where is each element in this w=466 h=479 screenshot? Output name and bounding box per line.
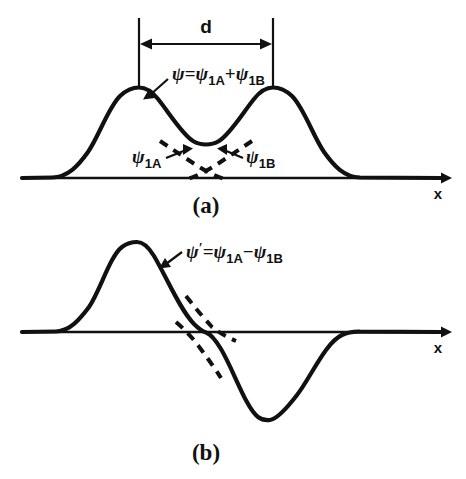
panel-a-atomic-left-pointer-arrowhead [183,144,193,155]
panel-a-label-term1-sub: 1A [208,73,225,88]
panel-a-curve-label: ψ=ψ1A+ψ1B [172,63,265,88]
panel-a-label-term1-psi: ψ [196,63,209,84]
panel-a-label-equals: = [185,63,196,84]
panel-a-label-term2-sub: 1B [248,73,265,88]
molecular-orbital-figure: d ψ=ψ1A+ψ1B ψ1A ψ1B [0,0,466,479]
panel-b-group: ψ′=ψ1A−ψ1B x (b) [22,241,452,465]
panel-a-atomic-right-sub: 1B [259,156,276,171]
panel-a-separation-arrowhead-right [260,39,272,50]
panel-b-label-operator: − [243,241,254,262]
panel-a-curve-label-pointer [150,79,168,95]
panel-b-label-psi: ψ [186,241,199,262]
panel-a-dashed-curve-1b [188,141,252,179]
panel-b-label-term1-sub: 1A [226,251,243,266]
panel-a-label-operator: + [225,63,236,84]
panel-b-curve-label: ψ′=ψ1A−ψ1B [186,241,283,266]
panel-a-axis-label: x [434,185,443,202]
panel-a-atomic-label-left: ψ1A [132,146,162,171]
panel-a-dashed-curve-1a [160,141,224,179]
panel-b-curve-label-pointer [166,252,182,264]
panel-b-caption: (b) [192,440,220,465]
panel-b-label-term2-psi: ψ [254,241,267,262]
panel-a-atomic-left-sub: 1A [145,156,162,171]
panel-a-label-psi: ψ [172,63,185,84]
panel-a-caption: (a) [193,193,220,218]
panel-a-atomic-right-pointer-arrowhead [217,144,227,155]
figure-svg: d ψ=ψ1A+ψ1B ψ1A ψ1B [0,0,466,479]
panel-a-separation-label: d [200,16,212,37]
panel-a-atomic-right-psi: ψ [246,146,259,167]
panel-a-solid-curve [22,88,441,179]
panel-b-curve-label-pointer-arrowhead [159,258,171,269]
panel-a-atomic-label-right: ψ1B [246,146,275,171]
panel-a-label-term2-psi: ψ [236,63,249,84]
panel-b-label-term2-sub: 1B [266,251,283,266]
panel-b-label-term1-psi: ψ [213,241,226,262]
panel-b-axis-label: x [434,339,443,356]
panel-a-atomic-left-psi: ψ [132,146,145,167]
panel-a-separation-arrowhead-left [140,39,152,50]
panel-a-group: d ψ=ψ1A+ψ1B ψ1A ψ1B [22,16,452,218]
panel-b-label-equals: = [203,241,214,262]
